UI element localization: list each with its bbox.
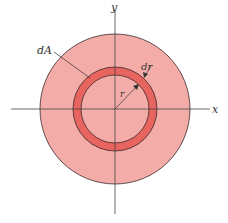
- y-axis-label: y: [110, 1, 118, 14]
- dA-label: dA: [37, 44, 52, 57]
- r-label: r: [120, 89, 125, 99]
- polar-moment-area-diagram: y x dA dr r: [0, 0, 228, 223]
- dr-label: dr: [141, 61, 153, 72]
- x-axis-label: x: [212, 103, 219, 116]
